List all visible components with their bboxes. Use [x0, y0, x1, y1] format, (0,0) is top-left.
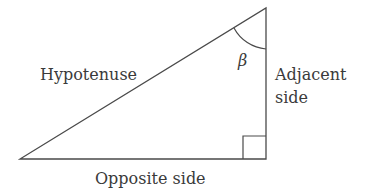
adjacent-label-line1: Adjacent: [274, 65, 347, 84]
hypotenuse-label: Hypotenuse: [40, 65, 137, 84]
adjacent-label-line2: side: [275, 88, 308, 107]
triangle-diagram: β Hypotenuse Adjacent side Opposite side: [0, 0, 372, 191]
opposite-label: Opposite side: [95, 169, 206, 188]
angle-beta-label: β: [237, 51, 247, 70]
angle-arc: [234, 28, 266, 49]
right-angle-marker: [243, 136, 266, 159]
